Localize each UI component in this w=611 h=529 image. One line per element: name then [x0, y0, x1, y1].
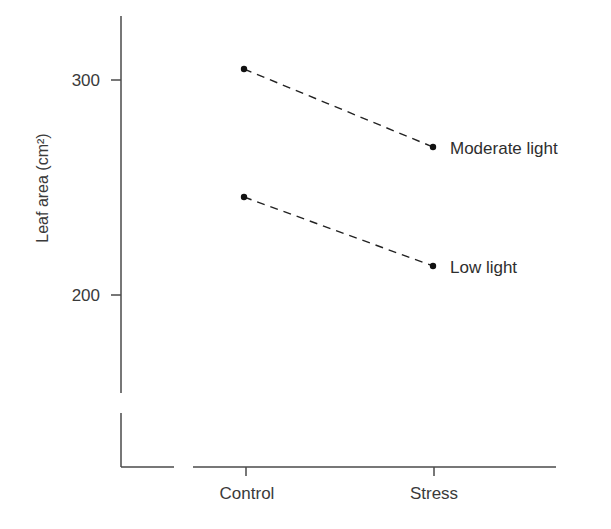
x-tick-label-control: Control	[220, 484, 275, 503]
series-moderate-light: Moderate light	[241, 66, 558, 158]
data-point-stress	[430, 144, 436, 150]
series-label: Low light	[450, 258, 517, 277]
series-label: Moderate light	[450, 139, 558, 158]
x-tick-label-stress: Stress	[410, 484, 458, 503]
series-line	[244, 69, 433, 147]
chart-canvas: 300 200 Control Stress Leaf area (cm²) M…	[0, 0, 611, 529]
y-tick-label-200: 200	[72, 286, 100, 305]
y-axis-title: Leaf area (cm²)	[34, 133, 51, 242]
data-point-stress	[430, 263, 436, 269]
y-tick-label-300: 300	[72, 71, 100, 90]
series-low-light: Low light	[241, 194, 518, 277]
data-point-control	[241, 66, 247, 72]
data-point-control	[241, 194, 247, 200]
series-line	[244, 197, 433, 266]
